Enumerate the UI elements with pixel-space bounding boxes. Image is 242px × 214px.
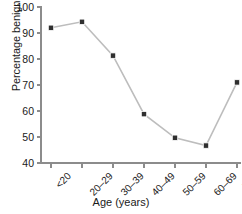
data-point-2 (110, 53, 115, 58)
axes (37, 6, 241, 168)
series-line-percentage-benign (51, 22, 237, 146)
data-point-1 (79, 19, 84, 24)
data-point-4 (172, 135, 177, 140)
data-point-0 (48, 25, 53, 30)
data-point-6 (234, 80, 239, 85)
data-point-3 (141, 111, 146, 116)
data-point-5 (203, 143, 208, 148)
series-markers (48, 19, 239, 148)
plot-area (0, 0, 242, 214)
chart-container: Percentage benign Age (years) 4050607080… (0, 0, 242, 214)
